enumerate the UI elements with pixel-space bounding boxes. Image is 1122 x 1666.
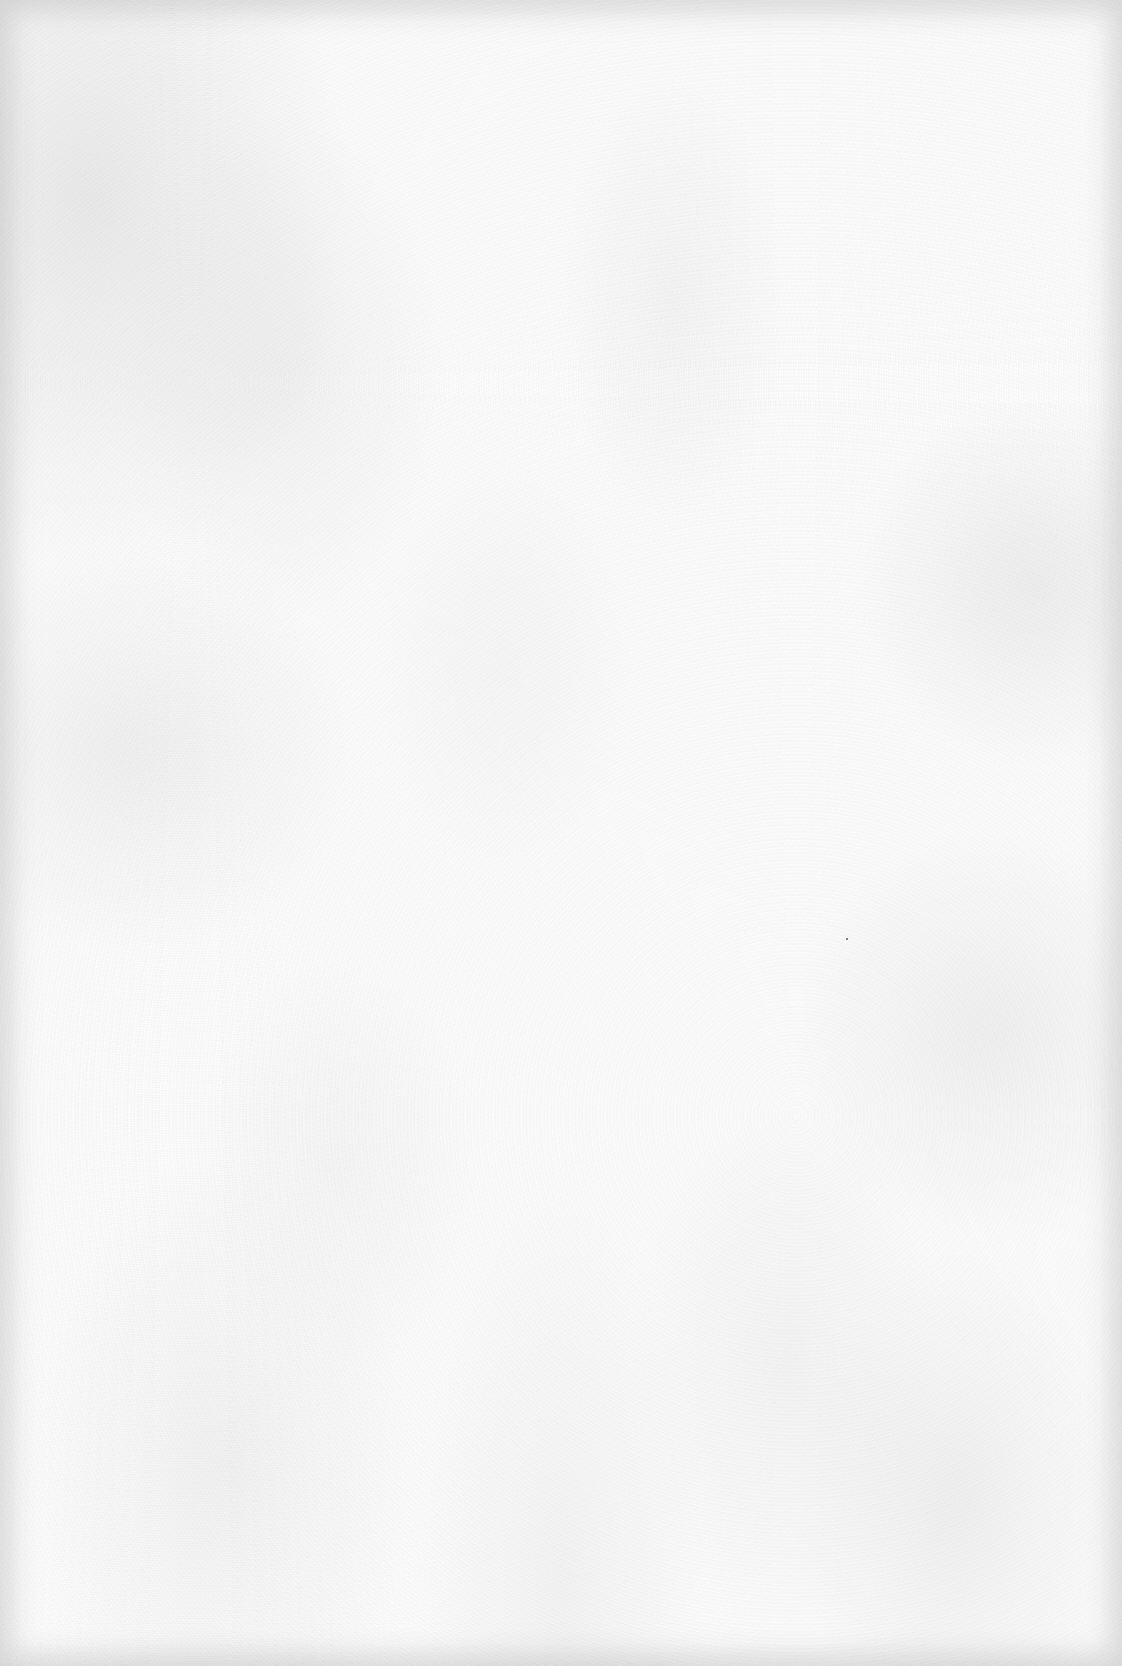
paper-speck: [846, 938, 848, 940]
blank-paper-page: [0, 0, 1122, 1666]
